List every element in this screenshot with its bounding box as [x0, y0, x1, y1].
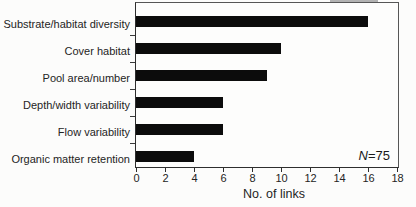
x-tick-label-6: 6 — [210, 172, 238, 185]
y-axis-tick — [130, 62, 135, 63]
x-tick-label-4: 4 — [181, 172, 209, 185]
y-axis-tick — [130, 89, 135, 90]
bar-substrate-habitat-diversity — [136, 16, 368, 27]
sample-size-annotation: N=75 — [359, 149, 390, 163]
y-axis-tick — [130, 116, 135, 117]
category-label-substrate-habitat-diversity: Substrate/habitat diversity — [0, 17, 130, 31]
x-tick-label-12: 12 — [297, 172, 325, 185]
x-tick-label-16: 16 — [355, 172, 383, 185]
category-label-flow-variability: Flow variability — [0, 125, 130, 139]
x-tick-label-14: 14 — [326, 172, 354, 185]
y-axis-tick — [130, 143, 135, 144]
category-label-pool-area-number: Pool area/number — [0, 71, 130, 85]
links-bar-chart-figure: N=75 No. of links Substrate/habitat dive… — [0, 0, 416, 207]
bar-pool-area-number — [136, 70, 267, 81]
x-tick-label-8: 8 — [239, 172, 267, 185]
x-tick-label-2: 2 — [152, 172, 180, 185]
annotation-value: =75 — [368, 148, 390, 163]
category-label-depth-width-variability: Depth/width variability — [0, 98, 130, 112]
annotation-n-symbol: N — [359, 148, 368, 163]
x-tick-label-0: 0 — [123, 172, 151, 185]
bar-flow-variability — [136, 124, 223, 135]
x-tick-label-10: 10 — [268, 172, 296, 185]
bar-depth-width-variability — [136, 97, 223, 108]
category-label-cover-habitat: Cover habitat — [0, 44, 130, 58]
y-axis-tick — [130, 35, 135, 36]
bar-organic-matter-retention — [136, 151, 194, 162]
bar-cover-habitat — [136, 43, 281, 54]
x-axis-title: No. of links — [143, 187, 405, 201]
category-label-organic-matter-retention: Organic matter retention — [0, 152, 130, 166]
plot-area: N=75 — [135, 2, 399, 168]
x-tick-label-18: 18 — [384, 172, 412, 185]
